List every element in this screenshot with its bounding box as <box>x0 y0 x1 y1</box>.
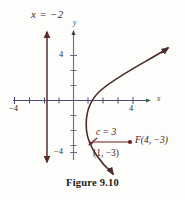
x-tick-label-4: 4 <box>129 104 133 113</box>
focal-segment <box>89 138 132 145</box>
parabola-upper-arrow <box>161 48 168 53</box>
y-tick-label-negative-4: −4 <box>54 147 63 156</box>
focal-distance-label: c = 3 <box>96 128 116 138</box>
y-axis <box>70 31 77 160</box>
directrix-label: x = −2 <box>31 9 64 20</box>
focus-label: F(4, −3) <box>135 136 168 146</box>
y-axis-label: y <box>73 19 76 27</box>
figure-container: x = −2 x y −4 4 4 −4 c = 3 F(4, −3) (1, … <box>0 0 185 200</box>
x-axis-label: x <box>157 95 160 103</box>
x-tick-label-negative-4: −4 <box>9 104 18 113</box>
focus-point-marker <box>128 140 132 144</box>
vertex-label: (1, −3) <box>93 149 119 159</box>
figure-caption: Figure 9.10 <box>0 177 185 188</box>
y-tick-label-4: 4 <box>59 50 63 59</box>
